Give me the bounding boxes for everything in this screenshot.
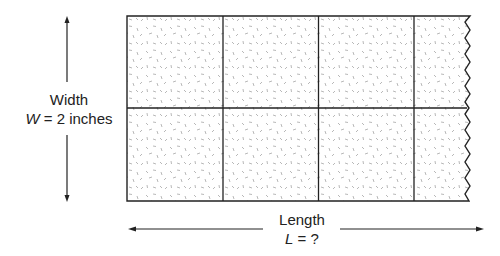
width-title: Width <box>14 90 124 109</box>
arrowhead-down-icon <box>65 195 70 202</box>
length-title: Length <box>262 210 342 229</box>
width-variable: W <box>25 110 39 127</box>
length-value: = ? <box>293 230 318 247</box>
arrowhead-up-icon <box>65 16 70 23</box>
arrowhead-left-icon <box>128 227 136 232</box>
arrowhead-right-icon <box>476 227 484 232</box>
length-label: Length L = ? <box>262 210 342 248</box>
width-value: = 2 inches <box>40 110 113 127</box>
tile-diagram <box>0 0 500 256</box>
width-label: Width W = 2 inches <box>14 90 124 128</box>
